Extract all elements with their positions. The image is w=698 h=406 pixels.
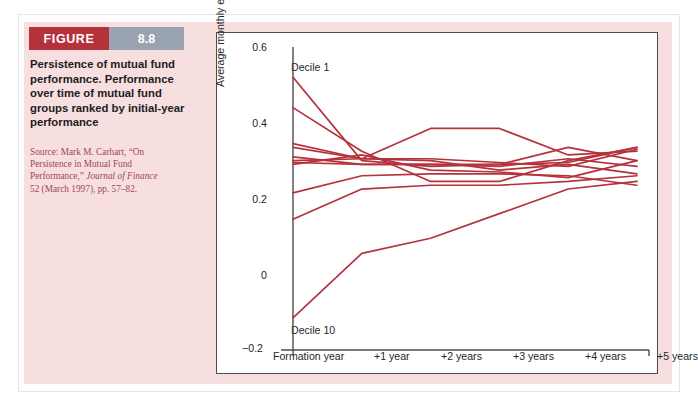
figure-header-bar: FIGURE 8.8: [29, 27, 184, 50]
series-line: [293, 174, 637, 193]
figure-number: 8.8: [109, 27, 184, 50]
source-journal-name: Journal of Finance: [86, 171, 157, 181]
figure-source: Source: Mark M. Carhart, “On Persistence…: [30, 146, 202, 195]
series-line: [293, 128, 637, 158]
series-line: [293, 77, 637, 166]
chart-series-layer: [217, 33, 659, 375]
x-tick-label: +5 years: [657, 350, 698, 362]
figure-label: FIGURE: [29, 27, 109, 50]
source-line-1: Source: Mark M. Carhart, “On: [30, 147, 144, 157]
series-line: [293, 181, 637, 317]
source-line-3-plain: Performance,”: [30, 171, 86, 181]
figure-caption: Persistence of mutual fund performance. …: [30, 57, 196, 130]
source-line-4: 52 (March 1997), pp. 57–82.: [30, 184, 137, 194]
chart-plot-area: Average monthly excess return (%) 0.6 0.…: [216, 32, 658, 374]
source-line-2: Persistence in Mutual Fund: [30, 159, 132, 169]
